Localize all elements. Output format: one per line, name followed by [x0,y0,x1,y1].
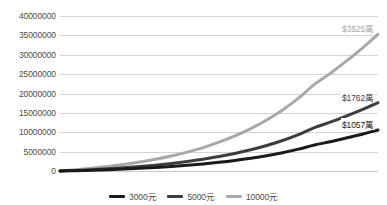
y-axis-tick-label: 0 [0,166,56,176]
legend-item-5000元[interactable]: 5000元 [167,190,214,202]
legend-swatch-icon [226,195,242,198]
legend-label: 3000元 [129,190,156,202]
legend-swatch-icon [109,195,125,198]
endpoint-label-5000元: $1762萬 [341,91,375,103]
legend-item-10000元[interactable]: 10000元 [226,190,278,202]
legend-label: 10000元 [246,190,278,202]
y-axis-tick-label: 25000000 [0,69,56,79]
series-line-10000元 [60,34,378,171]
chart-legend: 3000元5000元10000元 [0,190,387,202]
y-axis-tick-label: 15000000 [0,108,56,118]
y-axis: 4000000035000000300000002500000020000000… [0,0,56,205]
series-curves [60,16,378,171]
y-axis-tick-label: 5000000 [0,147,56,157]
endpoint-label-10000元: $3525萬 [341,22,375,34]
endpoint-label-3000元: $1057萬 [341,118,375,130]
plot-area [60,16,378,171]
y-axis-tick-label: 30000000 [0,50,56,60]
legend-label: 5000元 [187,190,214,202]
y-axis-tick-label: 20000000 [0,89,56,99]
series-line-5000元 [60,103,378,171]
legend-swatch-icon [167,195,183,198]
y-axis-tick-label: 10000000 [0,127,56,137]
compound-growth-line-chart: 4000000035000000300000002500000020000000… [0,0,387,205]
y-axis-tick-label: 40000000 [0,11,56,21]
legend-item-3000元[interactable]: 3000元 [109,190,156,202]
series-line-3000元 [60,130,378,171]
y-axis-tick-label: 35000000 [0,30,56,40]
